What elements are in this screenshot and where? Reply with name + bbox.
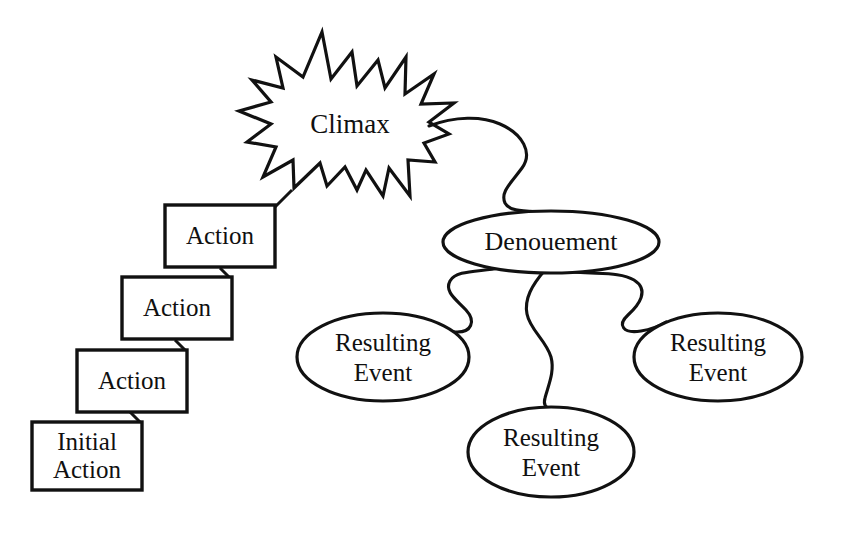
rising-action-steps: Action Action Action Initial Action xyxy=(32,205,275,490)
connector-denouement-to-event-bottom xyxy=(526,270,552,409)
action-box-label: Action xyxy=(186,222,255,249)
action-box-label: Action xyxy=(98,367,167,394)
denouement-label: Denouement xyxy=(485,227,619,256)
climax-label: Climax xyxy=(310,109,390,139)
connector-action1-to-climax xyxy=(275,190,292,207)
resulting-event-label-line2: Event xyxy=(354,359,412,386)
resulting-event-label-line2: Event xyxy=(522,454,580,481)
initial-action-box[interactable]: Initial Action xyxy=(32,422,142,490)
denouement-node[interactable]: Denouement xyxy=(443,211,659,273)
initial-action-label-line2: Action xyxy=(53,456,122,483)
climax-node[interactable]: Climax xyxy=(239,32,454,196)
connector-denouement-to-event-right xyxy=(562,270,666,332)
action-box-4-top[interactable]: Action xyxy=(165,205,275,267)
resulting-event-left[interactable]: Resulting Event xyxy=(297,313,469,401)
resulting-event-label-line1: Resulting xyxy=(503,424,599,451)
resulting-event-ellipse-shape xyxy=(634,313,802,401)
resulting-event-label-line1: Resulting xyxy=(670,329,766,356)
action-box-3[interactable]: Action xyxy=(122,277,232,339)
resulting-event-right[interactable]: Resulting Event xyxy=(634,313,802,401)
resulting-event-ellipse-shape xyxy=(297,313,469,401)
resulting-events: Resulting Event Resulting Event Resultin… xyxy=(297,313,802,497)
resulting-event-bottom[interactable]: Resulting Event xyxy=(468,407,634,497)
plot-structure-diagram: Action Action Action Initial Action Clim… xyxy=(0,0,841,533)
initial-action-label-line1: Initial xyxy=(57,428,117,455)
resulting-event-ellipse-shape xyxy=(468,407,634,497)
action-box-2[interactable]: Action xyxy=(77,350,187,412)
connector-denouement-to-event-left xyxy=(433,268,500,332)
resulting-event-label-line2: Event xyxy=(689,359,747,386)
action-box-label: Action xyxy=(143,294,212,321)
resulting-event-label-line1: Resulting xyxy=(335,329,431,356)
